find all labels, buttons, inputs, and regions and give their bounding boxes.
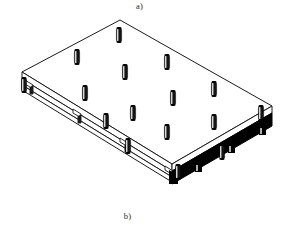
- locating-pin: [170, 90, 175, 106]
- locating-pin: [258, 105, 263, 121]
- locating-pin: [164, 124, 169, 140]
- isometric-plate-drawing: [0, 14, 295, 210]
- locating-pin: [211, 81, 216, 97]
- locating-pin: [125, 138, 130, 154]
- locating-pin: [82, 85, 87, 101]
- locating-pin: [21, 77, 26, 93]
- subfigure-label-b: b): [0, 211, 275, 221]
- locating-pin: [122, 64, 127, 80]
- figure-container: a): [0, 0, 295, 232]
- locating-pin: [74, 49, 79, 65]
- beam-tab: [228, 145, 235, 153]
- subfigure-label-a: a): [0, 1, 287, 11]
- beam-tab: [259, 127, 266, 135]
- locating-pin: [219, 144, 224, 160]
- locating-pin: [103, 113, 108, 129]
- locating-pin: [175, 164, 180, 180]
- beam-tab: [195, 164, 202, 172]
- locating-pin: [116, 27, 121, 43]
- locating-pin: [211, 114, 216, 130]
- locating-pin: [130, 105, 135, 121]
- locating-pin: [164, 54, 169, 70]
